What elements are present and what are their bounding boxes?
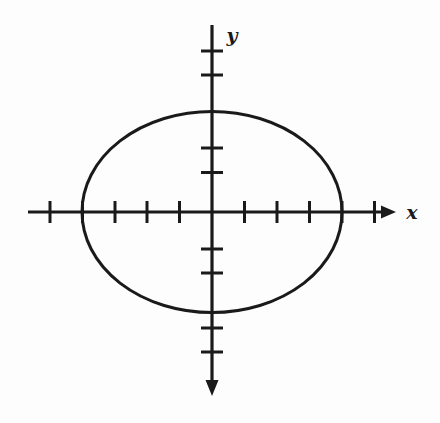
- figure-container: x y: [0, 0, 440, 423]
- y-axis-label: y: [225, 24, 239, 46]
- coordinate-plane-graph: x y: [0, 0, 440, 423]
- x-axis-label: x: [405, 201, 418, 223]
- x-axis-arrowhead-icon: [381, 206, 396, 219]
- y-axis-arrowhead-icon: [206, 380, 219, 396]
